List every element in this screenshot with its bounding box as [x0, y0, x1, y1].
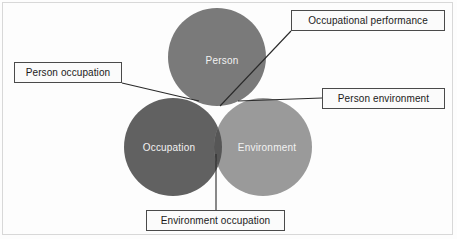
leader-line-person-environment	[238, 98, 322, 101]
callout-environment-occupation: Environment occupation	[146, 210, 285, 231]
circle-label-person: Person	[196, 56, 248, 66]
venn-diagram-canvas	[0, 0, 457, 239]
venn-diagram-page: Person Occupation Environment Occupation…	[0, 0, 457, 239]
callout-person-occupation: Person occupation	[14, 62, 122, 83]
circle-label-occupation: Occupation	[134, 143, 204, 153]
callout-person-environment: Person environment	[322, 88, 445, 109]
callout-occupational-performance: Occupational performance	[291, 10, 445, 31]
circle-label-environment: Environment	[229, 143, 305, 153]
